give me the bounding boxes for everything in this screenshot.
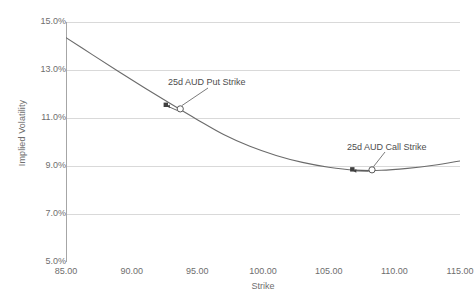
y-axis-tick-label: 15.0%: [6, 16, 66, 26]
implied-volatility-chart: Implied Volatility 5.0%7.0%9.0%11.0%13.0…: [0, 0, 475, 303]
y-axis-tick-label: 7.0%: [6, 208, 66, 218]
put-strike-annotation-label: 25d AUD Put Strike: [168, 77, 246, 87]
y-axis-title: Implied Volatility: [17, 63, 27, 203]
x-axis-tick-label: 100.00: [233, 266, 293, 276]
y-axis-tick-label: 9.0%: [6, 160, 66, 170]
x-axis-tick-label: 115.00: [430, 266, 475, 276]
call-strike-annotation-label: 25d AUD Call Strike: [347, 142, 427, 152]
x-axis-tick-label: 85.00: [36, 266, 96, 276]
x-axis-title: Strike: [66, 281, 460, 291]
x-axis-tick-label: 105.00: [299, 266, 359, 276]
x-axis-tick-label: 110.00: [364, 266, 424, 276]
y-axis-tick-label: 5.0%: [6, 256, 66, 266]
y-axis-tick-label: 13.0%: [6, 64, 66, 74]
x-axis-tick-label: 90.00: [102, 266, 162, 276]
x-axis-tick-label: 95.00: [167, 266, 227, 276]
y-axis-tick-label: 11.0%: [6, 112, 66, 122]
